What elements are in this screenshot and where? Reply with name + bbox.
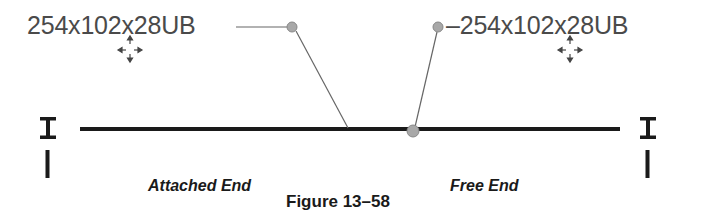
free-end-label: Free End <box>450 178 518 194</box>
attached-end-label: Attached End <box>148 178 251 194</box>
move-cursor-icon[interactable] <box>558 36 582 62</box>
left-tag-leader <box>236 22 348 128</box>
move-cursor-icon[interactable] <box>118 36 142 62</box>
right-tag-grip-dot[interactable] <box>433 22 443 32</box>
beam-attach-grip-dot[interactable] <box>407 125 419 137</box>
figure-caption: Figure 13–58 <box>286 193 390 210</box>
i-beam-section-icon <box>640 117 656 139</box>
right-end-bar-icon <box>646 150 650 178</box>
left-tag-grip-dot[interactable] <box>287 22 297 32</box>
i-beam-section-icon <box>40 117 56 139</box>
right-section-tag[interactable]: –254x102x28UB <box>446 13 628 38</box>
left-section-tag[interactable]: 254x102x28UB <box>27 13 196 38</box>
left-end-bar-icon <box>46 150 50 178</box>
right-tag-leader <box>407 22 443 137</box>
